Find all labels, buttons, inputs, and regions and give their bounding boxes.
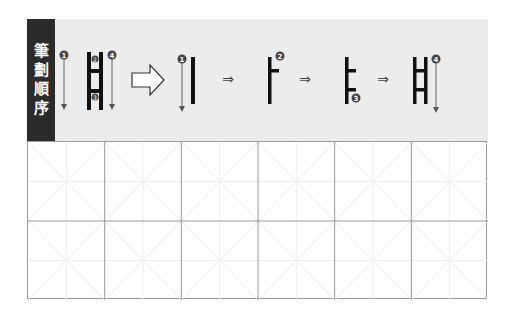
svg-text:4: 4 [110,52,115,60]
label-char: 序 [34,99,49,118]
svg-text:3: 3 [93,94,97,101]
label-char: 筆 [34,42,49,61]
grid-lines [28,142,488,300]
svg-text:1: 1 [180,56,185,64]
label-char: 劃 [34,61,49,80]
stroke-diagrams: 1 2 3 4 1 ⇒ [55,19,488,141]
svg-text:2: 2 [278,53,283,61]
svg-text:⇒: ⇒ [377,71,389,87]
label-char: 順 [34,80,49,99]
svg-text:3: 3 [354,95,359,103]
svg-text:4: 4 [434,56,439,64]
svg-text:⇒: ⇒ [222,71,234,87]
stroke-order-label: 筆 劃 順 序 [27,19,55,141]
svg-text:2: 2 [93,56,97,63]
overview-glyph: 1 2 3 4 [60,51,117,111]
practice-sheet: 筆 劃 順 序 1 2 [27,19,488,300]
practice-grid [27,141,487,299]
stroke-order-diagram: 1 2 3 4 1 ⇒ [55,19,488,141]
svg-text:⇒: ⇒ [299,71,311,87]
stroke-order-header: 筆 劃 順 序 1 2 [27,19,488,141]
svg-text:1: 1 [62,52,67,60]
